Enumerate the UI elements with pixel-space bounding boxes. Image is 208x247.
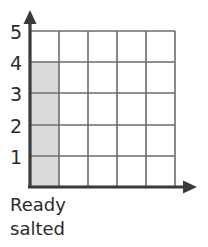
category-label-ready-salted: Ready salted xyxy=(10,194,66,239)
y-axis-tick-label-4: 4 xyxy=(10,52,22,74)
category-label-line-1: Ready xyxy=(10,194,66,215)
x-axis-arrow-icon xyxy=(183,181,197,194)
y-axis-tick-label-5: 5 xyxy=(10,21,22,43)
plot-grid xyxy=(30,31,175,187)
bar-chart: 5 4 3 2 1 Ready salted xyxy=(0,0,208,247)
y-axis-tick-labels: 5 4 3 2 1 xyxy=(10,21,22,168)
y-axis-tick-label-3: 3 xyxy=(10,83,22,105)
chart-canvas: 5 4 3 2 1 Ready salted xyxy=(0,0,208,247)
category-label-line-2: salted xyxy=(10,218,65,239)
y-axis-arrow-icon xyxy=(24,10,37,24)
y-axis-tick-label-2: 2 xyxy=(10,115,22,137)
y-axis-tick-label-1: 1 xyxy=(10,146,22,168)
